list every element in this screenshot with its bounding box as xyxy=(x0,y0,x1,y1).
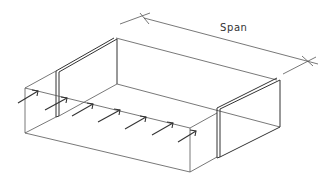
diagram-canvas xyxy=(0,0,335,192)
right-wall-base-edge xyxy=(220,127,280,157)
arrow-icon xyxy=(72,103,93,116)
left-wall-top-edge-inner xyxy=(59,39,117,72)
arrow-icon xyxy=(178,130,196,142)
left-wall-base-edge xyxy=(59,84,117,116)
extension-line-right xyxy=(283,57,316,74)
arrow-icon xyxy=(152,122,173,135)
box-bottom-left-back xyxy=(25,117,56,133)
right-wall-panel xyxy=(217,78,280,158)
left-wall-top-edge-outer xyxy=(56,38,114,71)
box-top-right-back xyxy=(190,113,217,128)
arrow-icon xyxy=(98,109,120,122)
arrow-icon xyxy=(18,90,38,103)
box-top-left-back xyxy=(25,71,56,88)
load-box xyxy=(25,71,217,172)
right-wall-top-edge-outer xyxy=(217,78,277,108)
box-top-back-edge xyxy=(116,38,277,80)
box-floor-back-edge xyxy=(117,84,280,127)
arrow-icon xyxy=(125,116,146,129)
left-wall-panel xyxy=(56,38,117,117)
box-bottom-front-edge xyxy=(25,133,190,172)
box-bottom-right-back xyxy=(190,157,217,172)
right-wall-top-edge-inner xyxy=(220,80,280,109)
span-label: Span xyxy=(220,22,248,33)
